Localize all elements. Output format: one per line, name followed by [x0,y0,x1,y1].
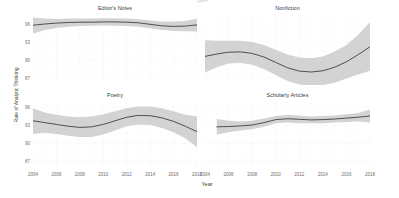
y-tick-label: 96 [16,105,30,110]
x-tick-label: 2008 [71,172,89,177]
panel-title-nonfiction: Nonfiction [205,4,370,12]
x-tick-label: 2010 [94,172,112,177]
plot-area-nonfiction [205,15,370,85]
panel-poetry [33,100,197,167]
panel-title-scholarly-articles: Scholarly Articles [205,91,370,99]
x-tick-label: 2008 [243,172,261,177]
confidence-band [217,109,370,134]
x-tick-label: 2004 [24,172,42,177]
y-tick-label: 87 [16,76,30,81]
plot-area-poetry [33,100,197,167]
x-tick-label: 2012 [118,172,136,177]
cropped-text-artifact [197,0,208,3]
x-tick-label: 2006 [220,172,238,177]
x-tick-label: 2016 [337,172,355,177]
x-tick-label: 2016 [165,172,183,177]
panel-editors-notes [33,15,197,85]
x-tick-label: 2004 [196,172,214,177]
panel-nonfiction [205,15,370,85]
y-tick-label: 90 [16,58,30,63]
x-tick-label: 2012 [290,172,308,177]
faceted-line-chart: Rate of Analytic Thinking Editor's Notes… [0,0,399,198]
x-tick-label: 2014 [141,172,159,177]
x-tick-label: 2014 [314,172,332,177]
plot-area-editors-notes [33,15,197,85]
confidence-band [33,17,197,33]
x-axis-title: Year [187,181,227,187]
y-tick-label: 93 [16,40,30,45]
plot-area-scholarly-articles [205,100,370,167]
y-tick-label: 96 [16,22,30,27]
panel-scholarly-articles [205,100,370,167]
x-tick-label: 2006 [47,172,65,177]
panel-title-editors-notes: Editor's Notes [33,4,197,12]
y-tick-label: 90 [16,141,30,146]
x-tick-label: 2018 [361,172,379,177]
panel-title-poetry: Poetry [33,91,197,99]
y-tick-label: 93 [16,123,30,128]
x-tick-label: 2010 [267,172,285,177]
y-tick-label: 87 [16,159,30,164]
